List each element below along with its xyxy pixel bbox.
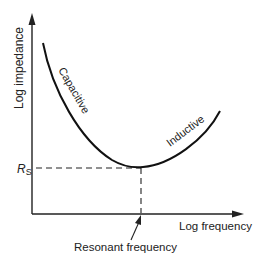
y-axis-label: Log impedance [12, 27, 26, 109]
rs-label-subscript: S [26, 167, 32, 177]
x-axis-label: Log frequency [179, 220, 252, 232]
impedance-diagram: Log impedance Log frequency Capacitive I… [0, 0, 253, 258]
capacitive-label: Capacitive [56, 65, 92, 115]
x-axis-arrow-icon [232, 211, 244, 218]
y-axis-arrow-icon [29, 13, 36, 25]
rs-label: RS [17, 162, 32, 177]
rs-label-main: R [17, 162, 26, 176]
resonant-frequency-label: Resonant frequency [74, 241, 177, 253]
inductive-label: Inductive [164, 113, 206, 149]
impedance-curve [43, 43, 220, 167]
resonance-pointer-arrow-icon [135, 215, 141, 225]
resonance-pointer-line [131, 222, 139, 240]
